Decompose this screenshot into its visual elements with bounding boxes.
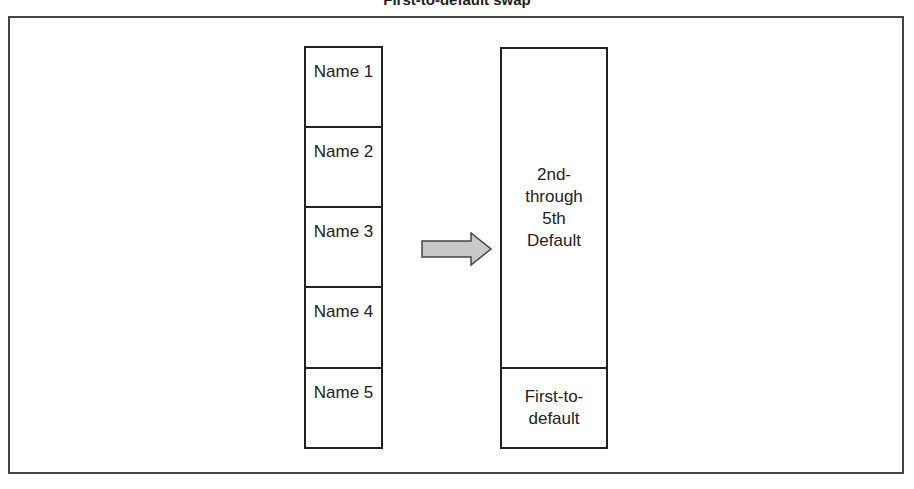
name-label: Name 4: [314, 302, 374, 321]
second-through-fifth-default-segment: 2nd- through 5th Default: [502, 49, 606, 369]
segment-label-line: 2nd-: [525, 164, 583, 186]
segment-label-line: 5th: [525, 208, 583, 230]
diagram-title: First-to-default swap: [0, 0, 914, 8]
segment-label-line: First-to-: [525, 386, 584, 408]
name-label: Name 1: [314, 62, 374, 81]
name-cell: Name 3: [306, 208, 381, 288]
segment-label-line: default: [525, 408, 584, 430]
segment-label-line: Default: [525, 230, 583, 252]
name-label: Name 5: [314, 383, 374, 402]
first-to-default-segment: First-to- default: [502, 369, 606, 447]
name-cell: Name 2: [306, 128, 381, 208]
name-cell: Name 1: [306, 48, 381, 128]
names-column: Name 1 Name 2 Name 3 Name 4 Name 5: [304, 46, 383, 449]
tranche-column: 2nd- through 5th Default First-to- defau…: [500, 47, 608, 449]
segment-label-line: through: [525, 186, 583, 208]
name-label: Name 3: [314, 222, 374, 241]
right-arrow-icon: [421, 232, 493, 266]
name-label: Name 2: [314, 142, 374, 161]
name-cell: Name 4: [306, 288, 381, 369]
name-cell: Name 5: [306, 369, 381, 447]
